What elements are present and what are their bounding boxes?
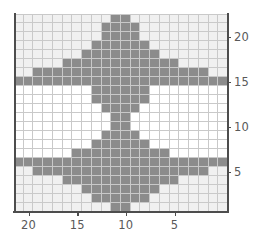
heatmap-cell bbox=[82, 50, 92, 59]
heatmap-cell bbox=[209, 14, 219, 23]
heatmap-cell bbox=[63, 140, 73, 149]
heatmap-cell bbox=[121, 176, 131, 185]
heatmap-cell bbox=[82, 77, 92, 86]
heatmap-cell bbox=[160, 140, 170, 149]
heatmap-cell bbox=[102, 131, 112, 140]
heatmap-cell bbox=[92, 68, 102, 77]
heatmap-cell bbox=[24, 59, 34, 68]
heatmap-cell bbox=[92, 77, 102, 86]
heatmap-cell bbox=[43, 167, 53, 176]
heatmap-cell bbox=[24, 41, 34, 50]
heatmap-cell bbox=[24, 113, 34, 122]
heatmap-cell bbox=[199, 140, 209, 149]
heatmap-cell bbox=[33, 167, 43, 176]
heatmap-cell bbox=[160, 113, 170, 122]
heatmap-cell bbox=[24, 50, 34, 59]
heatmap-cell bbox=[63, 50, 73, 59]
heatmap-cell bbox=[121, 50, 131, 59]
heatmap-cell bbox=[43, 77, 53, 86]
heatmap-cell bbox=[160, 149, 170, 158]
heatmap-cell bbox=[160, 185, 170, 194]
heatmap-cell bbox=[121, 158, 131, 167]
heatmap-cell bbox=[43, 194, 53, 203]
heatmap-cell bbox=[53, 68, 63, 77]
y-tick-label: 10 bbox=[234, 120, 249, 134]
heatmap-cell bbox=[111, 167, 121, 176]
heatmap-cell bbox=[33, 194, 43, 203]
heatmap-cell bbox=[92, 23, 102, 32]
heatmap-cell bbox=[43, 113, 53, 122]
heatmap-cell bbox=[82, 122, 92, 131]
heatmap-cell bbox=[53, 41, 63, 50]
heatmap-cell bbox=[189, 86, 199, 95]
heatmap-cell bbox=[199, 95, 209, 104]
heatmap-cell bbox=[82, 104, 92, 113]
heatmap-cell bbox=[82, 14, 92, 23]
heatmap-cell bbox=[199, 59, 209, 68]
heatmap-cell bbox=[92, 59, 102, 68]
heatmap-cell bbox=[179, 77, 189, 86]
heatmap-cell bbox=[102, 194, 112, 203]
heatmap-cell bbox=[53, 176, 63, 185]
heatmap-cell bbox=[131, 140, 141, 149]
heatmap-cell bbox=[53, 122, 63, 131]
heatmap-cell bbox=[24, 158, 34, 167]
heatmap-cell bbox=[199, 77, 209, 86]
heatmap-cell bbox=[24, 140, 34, 149]
heatmap-cell bbox=[82, 23, 92, 32]
heatmap-cell bbox=[189, 23, 199, 32]
heatmap-cell bbox=[160, 41, 170, 50]
heatmap-cell bbox=[140, 167, 150, 176]
heatmap-cell bbox=[102, 50, 112, 59]
heatmap-cell bbox=[179, 104, 189, 113]
heatmap-cell bbox=[179, 176, 189, 185]
heatmap-cell bbox=[199, 32, 209, 41]
heatmap-grid bbox=[14, 14, 228, 212]
y-tick-label: 5 bbox=[234, 165, 242, 179]
heatmap-cell bbox=[140, 122, 150, 131]
heatmap-cell bbox=[72, 140, 82, 149]
heatmap-cell bbox=[189, 149, 199, 158]
heatmap-cell bbox=[63, 59, 73, 68]
heatmap-cell bbox=[179, 14, 189, 23]
heatmap-cell bbox=[179, 131, 189, 140]
heatmap-cell bbox=[24, 14, 34, 23]
heatmap-cell bbox=[92, 176, 102, 185]
heatmap-cell bbox=[63, 122, 73, 131]
heatmap-cell bbox=[170, 194, 180, 203]
heatmap-cell bbox=[199, 158, 209, 167]
heatmap-cell bbox=[72, 185, 82, 194]
y-tick-mark bbox=[227, 82, 231, 83]
heatmap-cell bbox=[72, 41, 82, 50]
heatmap-cell bbox=[72, 86, 82, 95]
heatmap-cell bbox=[43, 122, 53, 131]
heatmap-cell bbox=[43, 23, 53, 32]
heatmap-cell bbox=[170, 185, 180, 194]
heatmap-cell bbox=[102, 41, 112, 50]
heatmap-cell bbox=[72, 14, 82, 23]
heatmap-cell bbox=[33, 113, 43, 122]
heatmap-cell bbox=[199, 104, 209, 113]
heatmap-cell bbox=[102, 95, 112, 104]
heatmap-cell bbox=[189, 32, 199, 41]
heatmap-cell bbox=[33, 140, 43, 149]
heatmap-cell bbox=[92, 95, 102, 104]
heatmap-cell bbox=[92, 149, 102, 158]
heatmap-cell bbox=[160, 77, 170, 86]
heatmap-cell bbox=[179, 68, 189, 77]
heatmap-cell bbox=[179, 140, 189, 149]
heatmap-cell bbox=[24, 104, 34, 113]
heatmap-cell bbox=[170, 68, 180, 77]
heatmap-cell bbox=[43, 140, 53, 149]
heatmap-cell bbox=[199, 14, 209, 23]
heatmap-cell bbox=[33, 68, 43, 77]
heatmap-cell bbox=[121, 77, 131, 86]
heatmap-cell bbox=[43, 14, 53, 23]
heatmap-cell bbox=[150, 77, 160, 86]
heatmap-cell bbox=[199, 131, 209, 140]
heatmap-cell bbox=[140, 194, 150, 203]
heatmap-cell bbox=[43, 68, 53, 77]
heatmap-cell bbox=[63, 41, 73, 50]
heatmap-cell bbox=[131, 113, 141, 122]
heatmap-cell bbox=[53, 185, 63, 194]
